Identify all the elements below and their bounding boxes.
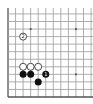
white-stone	[27, 63, 34, 70]
white-stone	[20, 63, 27, 70]
black-stone	[27, 71, 34, 78]
star-point-icon	[75, 73, 77, 75]
black-stone	[20, 71, 27, 78]
white-stone-icon	[27, 63, 34, 70]
star-point-icon	[75, 28, 77, 30]
board-grid	[8, 8, 93, 97]
move-number: 2	[22, 33, 25, 39]
white-stone-icon	[35, 63, 42, 70]
move-number: 1	[44, 71, 47, 77]
white-stone	[35, 63, 42, 70]
black-stone-icon	[27, 71, 34, 78]
star-point-icon	[30, 28, 32, 30]
white-stone: 2	[20, 33, 27, 40]
black-stone	[35, 78, 42, 85]
go-board: 21	[0, 0, 93, 104]
black-stone: 1	[42, 71, 49, 78]
white-stone-icon	[20, 63, 27, 70]
black-stone-icon	[20, 71, 27, 78]
black-stone-icon	[35, 78, 42, 85]
